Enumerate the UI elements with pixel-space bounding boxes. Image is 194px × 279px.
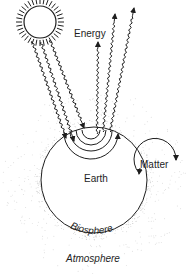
earth-energy-matter-diagram: Energy Earth Matter Biosphere Atmosphere xyxy=(0,0,194,279)
energy-label: Energy xyxy=(74,28,106,39)
biosphere-label: Biosphere xyxy=(69,220,114,236)
atmosphere-stipple xyxy=(3,95,186,274)
earth-label: Earth xyxy=(84,173,108,184)
sun-icon xyxy=(16,0,64,46)
incoming-energy-arrows xyxy=(31,40,84,141)
atmosphere-label: Atmosphere xyxy=(65,253,120,264)
matter-label: Matter xyxy=(140,159,169,170)
